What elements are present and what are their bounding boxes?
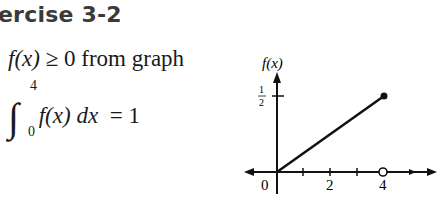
- graph: f(x) 1 2 0 2 4: [0, 0, 446, 202]
- x-axis-mid-arrow-icon: [409, 169, 416, 175]
- x-axis-right-arrow-icon: [427, 168, 437, 176]
- svg-text:1: 1: [259, 84, 264, 95]
- y-axis-arrow-icon: [273, 72, 281, 83]
- x-tick-4: 4: [379, 177, 387, 193]
- closed-endpoint: [381, 93, 388, 100]
- open-endpoint: [379, 168, 387, 176]
- svg-text:2: 2: [259, 97, 264, 108]
- x-axis-left-arrow-icon: [244, 168, 254, 176]
- x-tick-0: 0: [261, 177, 269, 193]
- y-axis-label: f(x): [262, 55, 283, 72]
- function-line: [277, 96, 384, 172]
- x-tick-2: 2: [326, 177, 334, 193]
